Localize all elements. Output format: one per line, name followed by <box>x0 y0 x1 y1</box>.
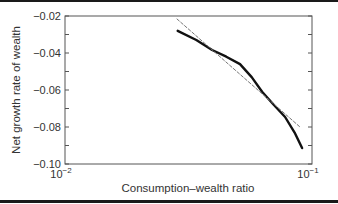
x-tick-label: 10−2 <box>50 166 72 180</box>
dashed-approximation-line <box>177 19 300 127</box>
y-tick-label: −0.06 <box>33 84 61 96</box>
axes-frame <box>65 16 312 164</box>
y-axis-ticks: −0.02−0.04−0.06−0.08−0.10 <box>33 10 312 170</box>
series-group <box>177 19 302 148</box>
plot-area <box>65 16 312 164</box>
y-axis-label: Net growth rate of wealth <box>10 26 22 154</box>
y-tick-label: −0.08 <box>33 121 61 133</box>
x-axis-label: Consumption–wealth ratio <box>122 182 255 194</box>
y-tick-label: −0.02 <box>33 10 61 22</box>
chart: −0.02−0.04−0.06−0.08−0.10 10−210−1 Consu… <box>0 0 338 204</box>
x-axis-ticks: 10−210−1 <box>50 166 319 180</box>
x-tick-label: 10−1 <box>297 166 319 180</box>
y-tick-label: −0.04 <box>33 47 61 59</box>
solid-growth-curve <box>178 31 302 148</box>
